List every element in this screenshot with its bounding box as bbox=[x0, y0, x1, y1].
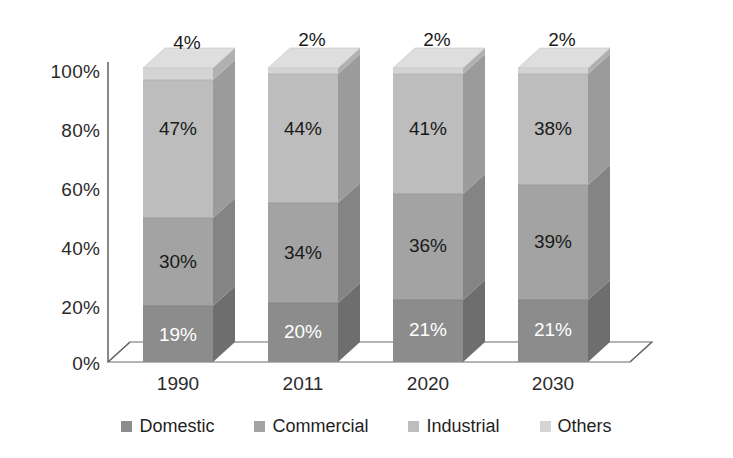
bar-2011-commercial-side bbox=[338, 183, 360, 303]
legend-label-others: Others bbox=[558, 417, 612, 435]
data-label-1990-others: 4% bbox=[152, 33, 222, 52]
bar-2030-commercial-side bbox=[588, 165, 610, 300]
legend-item-commercial[interactable]: Commercial bbox=[254, 417, 368, 435]
data-label-2030-others: 2% bbox=[527, 30, 597, 49]
bar-1990 bbox=[143, 48, 235, 362]
chart-plot-area bbox=[0, 0, 733, 458]
bar-2020 bbox=[393, 48, 485, 362]
bar-1990-industrial-side bbox=[213, 60, 235, 218]
data-label-2020-commercial: 36% bbox=[393, 236, 463, 255]
bar-2011 bbox=[268, 48, 360, 362]
bar-2011-others-front bbox=[268, 68, 338, 74]
legend-item-industrial[interactable]: Industrial bbox=[408, 417, 499, 435]
data-label-2030-domestic: 21% bbox=[518, 320, 588, 339]
bar-1990-industrial-front bbox=[143, 80, 213, 218]
x-axis-tick-2020: 2020 bbox=[368, 374, 488, 393]
data-label-2011-industrial: 44% bbox=[268, 119, 338, 138]
legend-label-industrial: Industrial bbox=[426, 417, 499, 435]
x-axis-tick-1990: 1990 bbox=[118, 374, 238, 393]
bar-2011-industrial-side bbox=[338, 54, 360, 203]
data-label-2020-industrial: 41% bbox=[393, 119, 463, 138]
chart-legend: Domestic Commercial Industrial Others bbox=[0, 412, 733, 440]
bar-2020-others-front bbox=[393, 68, 463, 74]
data-label-2020-others: 2% bbox=[402, 30, 472, 49]
y-axis-tick-60: 60% bbox=[22, 180, 100, 199]
y-axis-tick-0: 0% bbox=[22, 354, 100, 373]
y-axis-tick-80: 80% bbox=[22, 121, 100, 140]
bar-1990-others-front bbox=[143, 68, 213, 80]
legend-label-domestic: Domestic bbox=[139, 417, 214, 435]
y-axis-tick-100: 100% bbox=[22, 62, 100, 81]
bar-2020-commercial-side bbox=[463, 174, 485, 300]
x-axis-tick-2011: 2011 bbox=[243, 374, 363, 393]
stacked-bar-chart: 100% 80% 60% 40% 20% 0% 1990 2011 2020 2… bbox=[0, 0, 733, 458]
legend-item-others[interactable]: Others bbox=[540, 417, 612, 435]
legend-swatch-industrial-icon bbox=[408, 421, 419, 432]
legend-label-commercial: Commercial bbox=[272, 417, 368, 435]
data-label-1990-domestic: 19% bbox=[143, 325, 213, 344]
data-label-2020-domestic: 21% bbox=[393, 320, 463, 339]
bar-2030-others-front bbox=[518, 68, 588, 74]
legend-swatch-others-icon bbox=[540, 421, 551, 432]
y-axis-tick-40: 40% bbox=[22, 239, 100, 258]
data-label-2011-domestic: 20% bbox=[268, 322, 338, 341]
x-axis-tick-2030: 2030 bbox=[493, 374, 613, 393]
data-label-2011-others: 2% bbox=[277, 30, 347, 49]
data-label-2011-commercial: 34% bbox=[268, 243, 338, 262]
bar-2030-industrial-side bbox=[588, 54, 610, 185]
legend-item-domestic[interactable]: Domestic bbox=[121, 417, 214, 435]
bar-2020-industrial-side bbox=[463, 54, 485, 194]
y-axis-labels: 100% 80% 60% 40% 20% 0% bbox=[20, 0, 100, 458]
data-label-1990-industrial: 47% bbox=[143, 119, 213, 138]
data-label-1990-commercial: 30% bbox=[143, 252, 213, 271]
legend-swatch-commercial-icon bbox=[254, 421, 265, 432]
y-axis-tick-20: 20% bbox=[22, 298, 100, 317]
legend-swatch-domestic-icon bbox=[121, 421, 132, 432]
data-label-2030-commercial: 39% bbox=[518, 232, 588, 251]
data-label-2030-industrial: 38% bbox=[518, 119, 588, 138]
bar-2030 bbox=[518, 48, 610, 362]
